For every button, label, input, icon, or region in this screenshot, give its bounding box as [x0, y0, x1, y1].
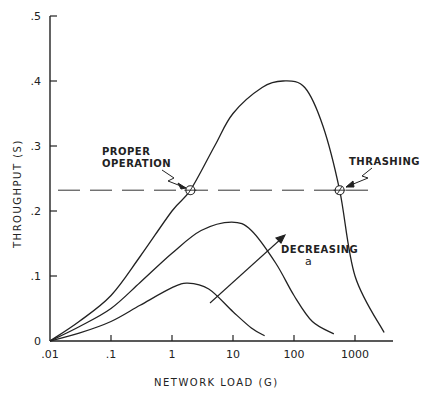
thrashing-leader-arrow: [346, 168, 372, 187]
x-tick-label: 10: [226, 348, 240, 361]
y-tick-label: .1: [31, 270, 42, 283]
y-tick-label: .4: [31, 75, 42, 88]
throughput-curves: [50, 81, 384, 341]
proper-operation-label-line2: OPERATION: [102, 158, 171, 169]
throughput-curve: [50, 81, 384, 341]
y-tick-label: .5: [31, 10, 42, 23]
proper-operation-leader-arrow: [162, 170, 186, 189]
throughput-curve: [50, 283, 265, 341]
throughput-curve: [50, 222, 334, 341]
y-tick-label: .2: [31, 205, 42, 218]
x-tick-label: 1000: [341, 348, 369, 361]
thrashing-label: THRASHING: [349, 156, 420, 167]
proper-operation-label-line1: PROPER: [102, 146, 150, 157]
y-tick-label: .3: [31, 140, 42, 153]
alpha-label: a: [305, 255, 312, 268]
x-tick-label: .1: [106, 348, 117, 361]
x-tick-label: .01: [41, 348, 59, 361]
x-tick-label: 1: [169, 348, 176, 361]
x-axis-title: NETWORK LOAD (G): [154, 377, 279, 388]
throughput-chart: .01.111010010000.1.2.3.4.5 PROPER OPERAT…: [0, 0, 422, 398]
y-tick-label: 0: [34, 335, 41, 348]
x-tick-label: 100: [284, 348, 305, 361]
decreasing-label: DECREASING: [281, 244, 358, 255]
decreasing-alpha-arrow: [210, 235, 285, 303]
y-axis-title: THROUGHPUT (S): [12, 139, 23, 249]
tick-labels: .01.111010010000.1.2.3.4.5: [31, 10, 370, 361]
